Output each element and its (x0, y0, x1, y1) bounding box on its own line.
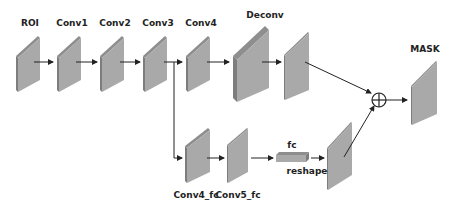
conv4-fc-label: Conv4_fc (173, 190, 218, 200)
mask-head-diagram: ROI Conv1 Conv2 Conv3 Conv4 Deconv MASK … (0, 0, 458, 209)
fc-block (276, 152, 309, 162)
roi-block (16, 36, 40, 92)
conv2-label: Conv2 (99, 18, 130, 28)
conv4-block (186, 36, 210, 92)
mask-label: MASK (410, 44, 439, 54)
reshape-block (327, 122, 352, 190)
deconv-output-block (284, 32, 309, 100)
conv5-fc-block (227, 128, 248, 183)
conv3-label: Conv3 (142, 18, 173, 28)
conv1-label: Conv1 (56, 18, 87, 28)
elementwise-sum-icon (372, 93, 386, 107)
roi-label: ROI (21, 18, 39, 28)
mask-block (411, 61, 437, 125)
diagram-graphics (0, 0, 458, 209)
conv1-block (57, 36, 81, 92)
deconv-block (233, 26, 269, 102)
conv3-block (143, 36, 167, 92)
conv4-label: Conv4 (185, 18, 216, 28)
conv4-fc-block (185, 128, 210, 183)
reshape-label: reshape (287, 166, 328, 176)
conv5-fc-label: Conv5_fc (215, 190, 260, 200)
conv2-block (100, 36, 124, 92)
fc-label: fc (287, 140, 296, 150)
deconv-label: Deconv (246, 10, 283, 20)
